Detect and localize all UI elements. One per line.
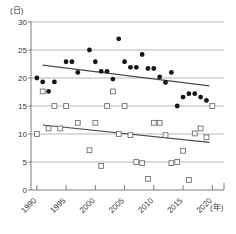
data-point-filled-circle: [110, 77, 115, 82]
data-point-filled-circle: [116, 36, 121, 41]
data-point-open-square: [40, 89, 45, 94]
y-tick-label: 10: [18, 130, 27, 139]
data-point-filled-circle: [134, 65, 139, 70]
data-point-open-square: [34, 132, 39, 137]
data-point-filled-circle: [187, 91, 192, 96]
chart-canvas: 051015202530 199019952000200520102015202…: [0, 0, 236, 234]
data-point-open-square: [46, 126, 51, 131]
data-point-filled-circle: [140, 52, 145, 57]
y-tick-label: 0: [23, 186, 28, 195]
data-point-filled-circle: [70, 59, 75, 64]
data-point-open-square: [198, 126, 203, 131]
data-point-open-square: [140, 161, 145, 166]
data-point-filled-circle: [151, 66, 156, 71]
data-point-filled-circle: [40, 80, 45, 85]
data-point-open-square: [181, 148, 186, 153]
data-point-open-square: [134, 160, 139, 165]
data-point-open-square: [163, 133, 168, 138]
data-point-open-square: [122, 104, 127, 109]
x-tick-labels-group: 1990199520002005201020152020: [19, 196, 214, 215]
data-point-filled-circle: [157, 74, 162, 79]
data-point-open-square: [175, 160, 180, 165]
data-point-open-square: [169, 161, 174, 166]
data-point-open-square: [93, 120, 98, 125]
x-tick-label: 2015: [166, 196, 185, 215]
data-point-filled-circle: [52, 80, 57, 85]
x-tick-label: 2005: [107, 196, 126, 215]
y-axis-unit-label: (日): [10, 6, 24, 15]
y-tick-label: 30: [18, 18, 27, 27]
y-tick-labels-group: 051015202530: [18, 18, 31, 195]
y-tick-label: 5: [23, 158, 28, 167]
data-point-open-square: [58, 126, 63, 131]
data-point-filled-circle: [46, 89, 51, 94]
data-point-filled-circle: [122, 59, 127, 64]
data-point-open-square: [151, 120, 156, 125]
data-point-open-square: [87, 148, 92, 153]
data-point-open-square: [105, 104, 110, 109]
x-tick-label: 2010: [136, 196, 155, 215]
data-point-filled-circle: [175, 104, 180, 109]
data-point-filled-circle: [99, 69, 104, 74]
upper-trendline: [43, 65, 210, 86]
filled-circle-points-group: [34, 36, 208, 108]
data-point-open-square: [64, 104, 69, 109]
data-point-open-square: [157, 120, 162, 125]
data-point-filled-circle: [34, 76, 39, 81]
y-tick-label: 25: [18, 46, 27, 55]
data-point-filled-circle: [181, 95, 186, 100]
x-tick-label: 1990: [19, 196, 38, 215]
data-point-filled-circle: [75, 70, 80, 75]
data-point-filled-circle: [93, 59, 98, 64]
data-point-open-square: [187, 178, 192, 183]
data-point-filled-circle: [198, 95, 203, 100]
x-axis-unit-label: (年): [210, 202, 224, 212]
data-point-open-square: [128, 133, 133, 138]
data-point-open-square: [192, 131, 197, 136]
data-point-filled-circle: [64, 59, 69, 64]
data-point-filled-circle: [163, 80, 168, 85]
open-square-points-group: [34, 89, 214, 182]
data-point-open-square: [52, 104, 57, 109]
data-point-open-square: [146, 176, 151, 181]
data-point-filled-circle: [169, 70, 174, 75]
data-point-filled-circle: [192, 91, 197, 96]
y-tick-label: 15: [18, 102, 27, 111]
data-point-open-square: [75, 120, 80, 125]
data-point-filled-circle: [128, 65, 133, 70]
data-point-filled-circle: [204, 98, 209, 103]
data-point-filled-circle: [87, 48, 92, 53]
data-point-open-square: [204, 135, 209, 140]
data-point-open-square: [99, 164, 104, 169]
data-point-open-square: [110, 89, 115, 94]
data-point-filled-circle: [146, 66, 151, 71]
x-tickmarks-group: [37, 185, 212, 190]
y-tick-label: 20: [18, 74, 27, 83]
data-point-open-square: [116, 132, 121, 137]
scatter-chart: 051015202530 199019952000200520102015202…: [0, 0, 236, 234]
x-tick-label: 1995: [49, 196, 68, 215]
x-tick-label: 2000: [78, 196, 97, 215]
data-point-open-square: [210, 104, 215, 109]
data-point-filled-circle: [105, 69, 110, 74]
